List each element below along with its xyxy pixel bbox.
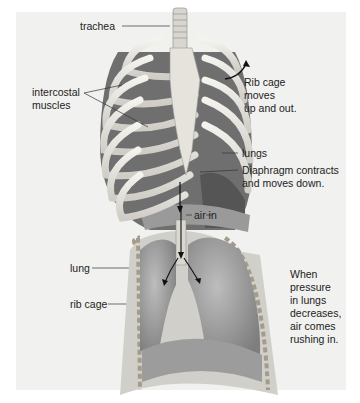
label-rib-cage: rib cage: [70, 298, 107, 311]
label-pressure-5: air comes: [290, 320, 336, 333]
label-rib-cage-moves-3: up and out.: [244, 102, 297, 115]
label-diaphragm-2: and moves down.: [242, 177, 324, 190]
label-air-in: air in: [194, 209, 217, 222]
label-trachea: trachea: [80, 20, 115, 33]
rib-cage-illustration: [100, 8, 252, 232]
label-lungs: lungs: [242, 147, 267, 160]
label-intercostal: intercostal: [32, 86, 80, 99]
trachea-shape: [173, 8, 187, 52]
label-rib-cage-moves-2: moves: [244, 89, 275, 102]
label-pressure-1: When: [290, 268, 317, 281]
label-diaphragm-1: Diaphragm contracts: [242, 164, 339, 177]
label-pressure-6: rushing in.: [290, 333, 338, 346]
label-muscles: muscles: [32, 99, 71, 112]
lungs-illustration: [120, 220, 278, 395]
label-lung: lung: [70, 262, 90, 275]
label-pressure-3: in lungs: [290, 294, 326, 307]
label-pressure-2: pressure: [290, 281, 331, 294]
label-rib-cage-moves-1: Rib cage: [244, 76, 285, 89]
label-pressure-4: decreases,: [290, 307, 341, 320]
